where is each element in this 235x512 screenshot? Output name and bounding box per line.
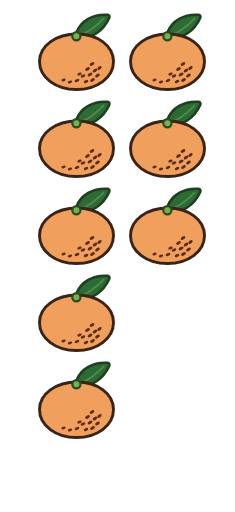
stem-nub-icon [72,32,80,40]
stem-nub-icon [72,293,80,301]
orange-7 [31,273,123,359]
orange-4 [122,99,214,185]
stem-nub-icon [163,206,171,214]
orange-2 [122,12,214,98]
stem-nub-icon [72,119,80,127]
stem-nub-icon [72,206,80,214]
stem-nub-icon [72,380,80,388]
stem-nub-icon [163,119,171,127]
orange-3 [31,99,123,185]
orange-5 [31,186,123,272]
orange-8 [31,360,123,446]
orange-1 [31,12,123,98]
orange-6 [122,186,214,272]
oranges-illustration-canvas: 8 [0,0,235,512]
stem-nub-icon [163,32,171,40]
